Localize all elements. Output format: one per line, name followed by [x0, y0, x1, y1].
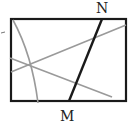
geometry-diagram: N M: [0, 0, 134, 129]
descending-crease-line: [10, 58, 112, 97]
label-m: M: [60, 108, 74, 124]
curved-crease-line: [13, 20, 38, 103]
ascending-crease-line: [11, 25, 126, 72]
edge-tick-mark: [1, 32, 5, 33]
segment-mn: [69, 19, 102, 101]
label-n: N: [96, 0, 108, 16]
